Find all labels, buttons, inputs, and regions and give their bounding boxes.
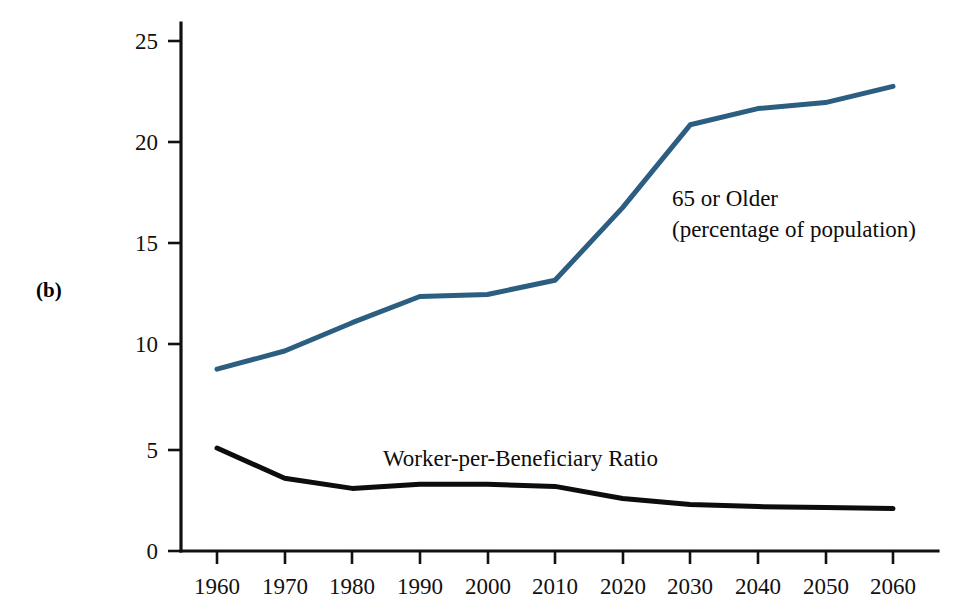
x-tick-label: 2010 [532, 574, 578, 599]
y-tick-label: 20 [135, 130, 158, 155]
annotation-line-1: Worker-per-Beneficiary Ratio [383, 446, 658, 471]
x-tick-label: 1990 [397, 574, 443, 599]
x-tick-label: 2060 [870, 574, 916, 599]
y-axis-ticks [168, 41, 181, 551]
x-tick-label: 1960 [194, 574, 240, 599]
annotation-65-or-older: 65 or Older (percentage of population) [672, 186, 916, 242]
y-tick-label: 10 [135, 332, 158, 357]
annotation-worker-per-beneficiary: Worker-per-Beneficiary Ratio [383, 446, 658, 471]
x-tick-label: 2020 [600, 574, 646, 599]
y-axis-tick-labels: 25 20 15 10 5 0 [135, 29, 158, 564]
annotation-line-1: 65 or Older [672, 186, 778, 211]
annotation-line-2: (percentage of population) [672, 217, 916, 242]
x-tick-label: 1970 [262, 574, 308, 599]
x-tick-label: 2030 [667, 574, 713, 599]
x-tick-label: 2000 [465, 574, 511, 599]
line-chart: 25 20 15 10 5 0 1960 1970 1980 1990 [0, 0, 955, 612]
x-axis-ticks [217, 551, 893, 564]
y-tick-label: 0 [147, 539, 159, 564]
x-tick-label: 1980 [329, 574, 375, 599]
x-tick-label: 2040 [735, 574, 781, 599]
x-axis-tick-labels: 1960 1970 1980 1990 2000 2010 2020 2030 … [194, 574, 916, 599]
y-tick-label: 15 [135, 231, 158, 256]
y-tick-label: 25 [135, 29, 158, 54]
y-tick-label: 5 [147, 438, 159, 463]
figure-panel-b: (b) 25 20 15 10 5 0 [0, 0, 955, 612]
x-tick-label: 2050 [803, 574, 849, 599]
